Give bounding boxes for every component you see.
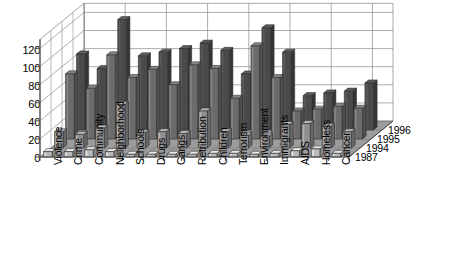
- x-axis-label-aids: AIDS: [299, 141, 311, 165]
- bar-side-face: [290, 121, 294, 148]
- bar-side-face: [363, 105, 367, 139]
- bar-highlight: [333, 155, 335, 156]
- bar-side-face: [157, 66, 161, 139]
- bar-highlight: [312, 150, 314, 156]
- x-axis-label-community: Community: [93, 114, 105, 165]
- x-axis-label-environment: Environment: [258, 108, 270, 165]
- bar-schools-1995: [148, 66, 160, 139]
- bar-highlight: [230, 155, 232, 156]
- bar-highlight: [106, 153, 108, 156]
- bar-highlight: [149, 71, 151, 138]
- bar-side-face: [177, 82, 181, 139]
- x-axis-label-terrorism: Terrorism: [237, 123, 249, 165]
- bar-highlight: [251, 155, 253, 156]
- x-axis-label-schools: Schools: [134, 129, 146, 165]
- x-axis-label-homeless: Homeless: [320, 120, 332, 165]
- bar-highlight: [45, 153, 47, 156]
- x-axis-label-cancer: Cancer: [340, 132, 352, 165]
- bar-highlight: [168, 155, 170, 156]
- bar-drugs-1995: [169, 82, 181, 139]
- bar-highlight: [209, 155, 211, 156]
- bar-violence-1995: [66, 71, 78, 139]
- bar-highlight: [252, 47, 254, 138]
- x-axis-label-gangs: Gangs: [175, 135, 187, 165]
- bar-side-face: [74, 71, 78, 139]
- x-axis-label-children: Children: [217, 127, 229, 165]
- bar-highlight: [86, 151, 88, 156]
- bar-highlight: [189, 155, 191, 156]
- x-axis-label-neighborhood: Neighborhood: [114, 101, 126, 165]
- x-axis-label-violence: Violence: [52, 127, 64, 166]
- depth-axis-label-1996: 1996: [388, 124, 411, 136]
- bar-highlight: [271, 155, 273, 156]
- chart-3d-bar: 120 100 80 60 40 20 0 ViolenceCrimeCommu…: [0, 0, 469, 259]
- x-axis-label-retribution: Retribution: [196, 116, 208, 165]
- x-axis-label-drugs: Drugs: [155, 138, 167, 165]
- bar-highlight: [273, 79, 275, 138]
- bar-highlight: [148, 155, 150, 156]
- bar-highlight: [292, 152, 294, 156]
- bar-highlight: [127, 155, 129, 156]
- bar-highlight: [65, 153, 67, 156]
- bar-side-face: [374, 80, 378, 130]
- x-axis-label-crime: Crime: [72, 138, 84, 165]
- bar-highlight: [87, 90, 89, 138]
- bar-cancer-1995: [354, 105, 366, 139]
- bar-highlight: [190, 66, 192, 138]
- x-axis-label-immigrants: Immigrants: [278, 115, 290, 165]
